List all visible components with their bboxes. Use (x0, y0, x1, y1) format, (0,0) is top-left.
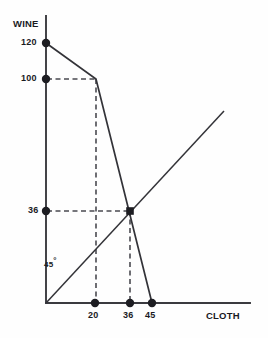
point-cloth-20 (91, 299, 99, 307)
point-cloth-36 (126, 299, 134, 307)
x-tick-label-20: 20 (88, 311, 98, 320)
production-possibility-frontier (46, 43, 152, 303)
point-equilibrium-36 (126, 207, 134, 215)
chart-canvas (0, 0, 268, 338)
y-tick-label-100: 100 (21, 74, 37, 83)
point-wine-120 (42, 39, 50, 47)
degree-symbol-icon: ° (53, 256, 56, 265)
angle-value: 45 (44, 260, 53, 269)
y-tick-label-36: 36 (28, 206, 38, 215)
forty-five-degree-ray (46, 111, 224, 303)
point-wine-100 (42, 75, 50, 83)
chart-figure: WINE CLOTH 120 100 36 20 36 45 45° (0, 0, 268, 338)
point-cloth-45 (148, 299, 156, 307)
x-axis-title: CLOTH (206, 311, 240, 321)
point-wine-36 (42, 207, 50, 215)
forty-five-degree-label: 45° (44, 261, 57, 269)
y-tick-label-120: 120 (21, 38, 37, 47)
y-axis-title: WINE (13, 19, 39, 29)
x-tick-label-36: 36 (123, 311, 133, 320)
x-tick-label-45: 45 (145, 311, 155, 320)
